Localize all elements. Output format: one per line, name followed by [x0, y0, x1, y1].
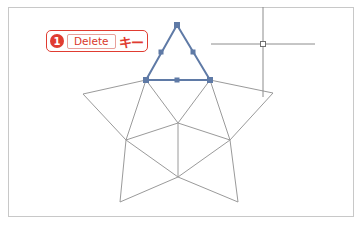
anchor-point[interactable] [191, 50, 196, 55]
anchor-point[interactable] [174, 22, 180, 28]
anchor-point[interactable] [207, 77, 213, 83]
star-inner-line [126, 140, 178, 177]
delete-key-label: Delete [67, 34, 116, 49]
star-inner-line [178, 140, 230, 177]
star-inner-line [178, 80, 210, 123]
instruction-callout: 1 Delete キー [46, 30, 148, 52]
star-shape [83, 80, 273, 202]
star-inner-line [178, 123, 230, 140]
anchor-point[interactable] [159, 50, 164, 55]
anchor-point[interactable] [143, 77, 149, 83]
star-inner-line [146, 80, 178, 123]
selected-triangle[interactable] [143, 22, 213, 83]
star-inner-line [126, 123, 178, 140]
anchor-point[interactable] [175, 78, 180, 83]
step-number-badge: 1 [50, 34, 64, 48]
key-suffix-text: キー [119, 32, 143, 51]
star-inner-line [126, 80, 146, 140]
star-inner-line [210, 80, 230, 140]
